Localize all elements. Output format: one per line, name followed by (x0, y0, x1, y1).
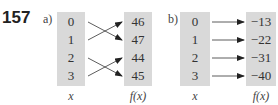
mapping-arrows (0, 0, 278, 105)
